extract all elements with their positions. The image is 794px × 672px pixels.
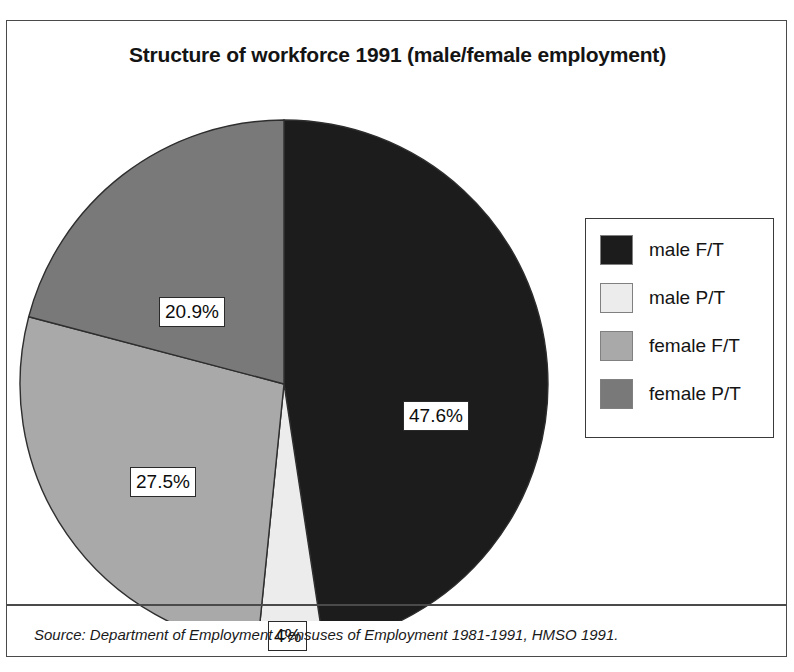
legend-item-female-ft: female F/T [600,329,740,363]
legend-label-male-ft: male F/T [649,239,724,261]
pie-slice-group [20,120,548,621]
footer-divider [7,604,787,606]
pie-chart: 47.6% 20.9% 27.5% 4% [7,76,557,621]
pie-slice [284,120,548,621]
legend-label-female-pt: female P/T [649,383,741,405]
legend-swatch-icon-male-ft [600,235,633,265]
legend-swatch-icon-female-ft [600,331,633,361]
legend-swatch-icon-female-pt [600,379,633,409]
chart-figure: Structure of workforce 1991 (male/female… [6,20,787,657]
legend-item-male-ft: male F/T [600,233,724,267]
legend-label-female-ft: female F/T [649,335,740,357]
page-title: Structure of workforce 1991 (male/female… [7,43,787,67]
pie-chart-svg [7,76,557,621]
legend-item-female-pt: female P/T [600,377,741,411]
legend: male F/T male P/T female F/T female P/T [585,218,774,438]
slice-label-male-ft: 47.6% [403,401,469,431]
legend-swatch-icon-male-pt [600,283,633,313]
legend-item-male-pt: male P/T [600,281,725,315]
slice-label-female-ft: 27.5% [130,467,196,497]
slice-label-female-pt: 20.9% [159,297,225,327]
source-note: Source: Department of Employment Censuse… [34,626,618,643]
legend-label-male-pt: male P/T [649,287,725,309]
